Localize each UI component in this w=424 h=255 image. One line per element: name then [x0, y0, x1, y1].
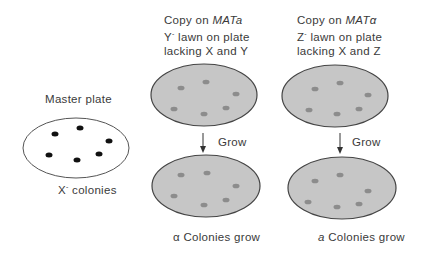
caption-text: colonies — [69, 184, 117, 196]
right-header-line2: Z- lawn on plate — [297, 27, 382, 44]
right-header: Copy on MATα Z- lawn on plate lacking X … — [297, 13, 382, 58]
result-text: Colonies grow — [325, 231, 405, 243]
right-grow-label: Grow — [352, 135, 381, 149]
left-grow-label: Grow — [218, 135, 247, 149]
left-header-line1: Copy on MATa — [164, 13, 250, 27]
master-plate-title: Master plate — [45, 92, 112, 106]
alpha-symbol: α — [173, 231, 180, 243]
header-text: Copy on — [164, 14, 212, 26]
master-plate-caption: X- colonies — [58, 180, 117, 197]
replica-plate-matalpha-top — [282, 65, 388, 127]
arrow-down-icon — [337, 133, 343, 154]
header-gene: Y — [164, 31, 172, 43]
left-result-label: α Colonies grow — [173, 230, 260, 244]
result-text: Colonies grow — [180, 231, 260, 243]
result-plate-mata-bottom — [152, 155, 260, 217]
arrow-down-icon — [200, 133, 206, 153]
header-text: lawn on plate — [175, 31, 250, 43]
right-header-line1: Copy on MATα — [297, 13, 382, 27]
result-plate-matalpha-bottom — [288, 157, 396, 219]
right-header-line3: lacking X and Z — [297, 44, 382, 58]
mating-type-label: MATa — [212, 14, 242, 26]
right-result-label: a Colonies grow — [318, 230, 405, 244]
left-header-line2: Y- lawn on plate — [164, 27, 250, 44]
header-text: Copy on — [297, 14, 345, 26]
mating-type-label: MATα — [345, 14, 376, 26]
master-plate — [23, 118, 129, 178]
replica-plate-mata-top — [151, 64, 257, 126]
left-header: Copy on MATa Y- lawn on plate lacking X … — [164, 13, 250, 58]
a-symbol: a — [318, 231, 325, 243]
header-text: lawn on plate — [307, 31, 382, 43]
caption-gene: X — [58, 184, 66, 196]
left-header-line3: lacking X and Y — [164, 44, 250, 58]
